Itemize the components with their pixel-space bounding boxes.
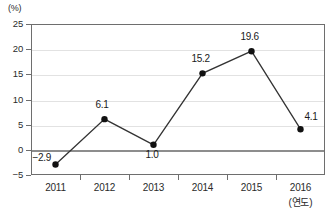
data-point-marker	[297, 126, 303, 132]
line-chart: (%) 2520151050−5 20112012201320142015201…	[0, 0, 335, 213]
series-line-layer	[0, 0, 335, 213]
series-line	[56, 51, 301, 164]
data-point-label: −2.9	[33, 152, 52, 163]
data-point-label: 19.6	[241, 31, 259, 42]
data-point-label: 6.1	[96, 99, 109, 110]
data-point-marker	[199, 70, 205, 76]
data-point-marker	[52, 161, 58, 167]
data-point-marker	[101, 116, 107, 122]
data-point-marker	[248, 48, 254, 54]
data-point-label: 1.0	[146, 149, 159, 160]
data-point-label: 15.2	[192, 53, 210, 64]
data-point-label: 4.1	[305, 111, 318, 122]
data-point-marker	[150, 142, 156, 148]
